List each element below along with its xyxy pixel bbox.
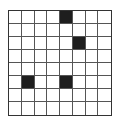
grid-cell bbox=[98, 63, 111, 76]
grid-cell bbox=[60, 37, 73, 50]
grid-cell bbox=[73, 63, 86, 76]
grid-cell bbox=[86, 50, 99, 63]
grid-cell bbox=[47, 50, 60, 63]
grid-cell bbox=[73, 76, 86, 89]
grid-cell bbox=[22, 89, 35, 102]
grid-cell bbox=[86, 24, 99, 37]
grid-cell bbox=[73, 50, 86, 63]
grid-cell bbox=[47, 76, 60, 89]
grid-cell bbox=[9, 11, 22, 24]
grid-cell bbox=[86, 37, 99, 50]
grid-cell bbox=[86, 63, 99, 76]
grid-cell bbox=[35, 50, 48, 63]
grid-cell bbox=[47, 37, 60, 50]
grid-cell bbox=[35, 37, 48, 50]
grid-cell bbox=[60, 63, 73, 76]
grid-cell bbox=[22, 37, 35, 50]
grid-cell bbox=[22, 50, 35, 63]
grid-cell bbox=[86, 102, 99, 115]
grid-cell bbox=[98, 37, 111, 50]
grid-cell bbox=[73, 11, 86, 24]
grid-cell bbox=[9, 102, 22, 115]
grid-cell bbox=[22, 102, 35, 115]
grid-cell bbox=[35, 102, 48, 115]
grid-cell bbox=[60, 50, 73, 63]
grid-cell bbox=[73, 102, 86, 115]
grid-cell bbox=[47, 89, 60, 102]
grid-cell bbox=[9, 50, 22, 63]
grid-cell bbox=[9, 76, 22, 89]
grid-cell bbox=[9, 37, 22, 50]
grid-cell bbox=[60, 89, 73, 102]
grid-cell-filled bbox=[60, 76, 73, 89]
grid-cell bbox=[98, 76, 111, 89]
grid-cell bbox=[47, 102, 60, 115]
grid-cell bbox=[22, 24, 35, 37]
grid-cell bbox=[35, 89, 48, 102]
grid-cell bbox=[86, 89, 99, 102]
grid-cell bbox=[35, 63, 48, 76]
grid-cell bbox=[86, 76, 99, 89]
grid-cell bbox=[35, 11, 48, 24]
grid-cell bbox=[73, 89, 86, 102]
grid-cell bbox=[98, 24, 111, 37]
grid-cell bbox=[35, 76, 48, 89]
grid-cell-filled bbox=[73, 37, 86, 50]
grid-cell bbox=[98, 89, 111, 102]
grid-cell bbox=[47, 63, 60, 76]
grid-cell bbox=[60, 24, 73, 37]
grid-cell-filled bbox=[60, 11, 73, 24]
grid-cell bbox=[9, 63, 22, 76]
grid-cell bbox=[73, 24, 86, 37]
grid-cell bbox=[60, 102, 73, 115]
grid-cell bbox=[9, 24, 22, 37]
grid-cell bbox=[22, 11, 35, 24]
grid-cell bbox=[9, 89, 22, 102]
grid-board bbox=[8, 10, 112, 116]
grid-cell bbox=[86, 11, 99, 24]
grid-cell bbox=[22, 63, 35, 76]
grid-cell bbox=[98, 50, 111, 63]
grid-cell bbox=[98, 102, 111, 115]
grid-cell bbox=[47, 24, 60, 37]
grid-cell bbox=[35, 24, 48, 37]
grid-cell bbox=[47, 11, 60, 24]
grid-cell-filled bbox=[22, 76, 35, 89]
grid-cell bbox=[98, 11, 111, 24]
